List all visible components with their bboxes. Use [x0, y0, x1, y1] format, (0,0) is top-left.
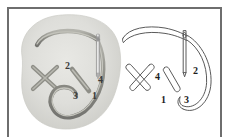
- figure-root: 2 4 3 1: [0, 0, 231, 137]
- label-1-outline: 1: [161, 95, 166, 105]
- label-1-shaded: 1: [92, 91, 97, 101]
- label-4-shaded: 4: [98, 75, 103, 85]
- completed-cross-stitch-outline: [126, 64, 154, 91]
- figure-stage: 2 4 3 1: [9, 9, 220, 135]
- line-art-illustration-panel: 2 4 1 3: [121, 9, 220, 135]
- label-3-shaded: 3: [73, 91, 78, 101]
- label-3-outline: 3: [184, 95, 189, 105]
- diagonal-stitch-outline: [163, 67, 180, 92]
- line-art-illustration-svg: [121, 9, 220, 135]
- shaded-illustration-panel: 2 4 3 1: [9, 9, 127, 135]
- thread-top-outline: [122, 27, 187, 43]
- label-4-outline: 4: [155, 72, 160, 82]
- shaded-illustration-svg: [9, 9, 127, 135]
- needle: [96, 34, 99, 79]
- label-2-outline: 2: [193, 66, 198, 76]
- label-2-shaded: 2: [65, 61, 70, 71]
- needle-outline: [183, 31, 186, 77]
